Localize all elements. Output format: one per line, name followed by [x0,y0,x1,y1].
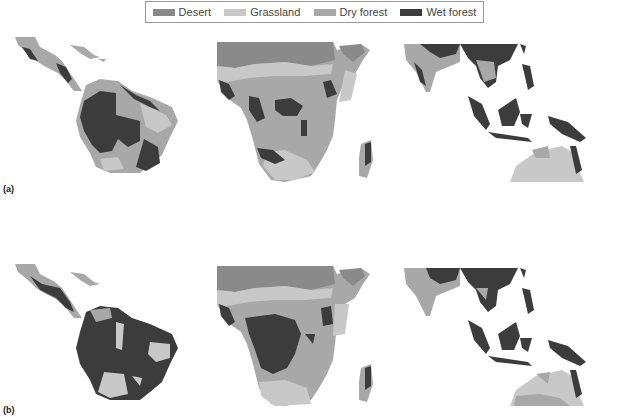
legend-item-dry-forest: Dry forest [314,6,388,18]
legend-item-wet-forest: Wet forest [400,6,476,18]
map-africa-b [215,264,385,414]
map-americas-b [0,262,200,407]
legend-item-grassland: Grassland [224,6,300,18]
grassland-swatch-icon [224,9,246,16]
legend-label: Wet forest [426,6,476,18]
legend-label: Grassland [250,6,300,18]
map-asia-b [400,266,629,406]
map-africa-a [215,40,385,190]
map-asia-a [400,42,629,182]
map-americas-a [0,35,200,180]
legend-label: Desert [179,6,211,18]
panel-label-a: (a) [3,184,14,194]
panel-label-b: (b) [3,405,15,415]
wet-forest-swatch-icon [400,9,422,16]
legend-label: Dry forest [340,6,388,18]
legend: Desert Grassland Dry forest Wet forest [145,1,484,23]
desert-swatch-icon [153,9,175,16]
dry-forest-swatch-icon [314,9,336,16]
legend-item-desert: Desert [153,6,211,18]
